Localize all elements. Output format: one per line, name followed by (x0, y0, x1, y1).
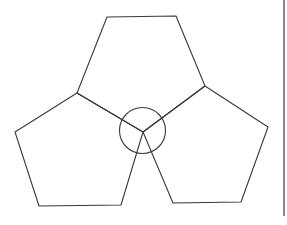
left-pentagon (15, 93, 143, 206)
center-circle (120, 108, 166, 154)
pentagon-diagram (0, 0, 287, 225)
right-pentagon (143, 86, 268, 203)
top-pentagon (77, 16, 205, 132)
